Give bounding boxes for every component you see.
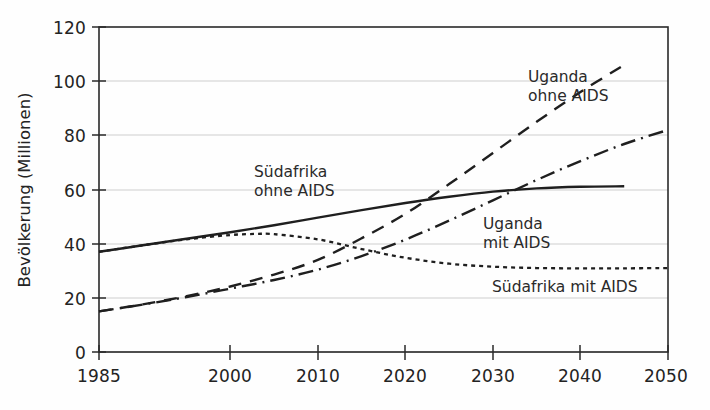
x-axis-label-2040: 2040 — [558, 366, 602, 386]
label-suedafrika-ohne-aids-line2: ohne AIDS — [254, 182, 335, 200]
y-axis-label-40: 40 — [64, 235, 86, 255]
population-projection-line-chart: 0 20 40 60 80 100 120 1985 2000 2010 202… — [0, 0, 710, 410]
x-axis-label-1985: 1985 — [77, 366, 121, 386]
gridlines — [99, 81, 668, 352]
y-axis-label-60: 60 — [64, 181, 86, 201]
y-axis-label-120: 120 — [53, 18, 86, 38]
x-axis-label-2010: 2010 — [296, 366, 340, 386]
y-axis-title: Bevölkerung (Millionen) — [15, 92, 34, 287]
label-uganda-mit-aids-line1: Uganda — [483, 215, 543, 233]
label-uganda-ohne-aids-line2: ohne AIDS — [528, 87, 609, 105]
chart-container: 0 20 40 60 80 100 120 1985 2000 2010 202… — [0, 0, 710, 410]
label-uganda-ohne-aids-line1: Uganda — [528, 68, 588, 86]
y-axis-label-80: 80 — [64, 126, 86, 146]
x-tick-labels: 1985 2000 2010 2020 2030 2040 2050 — [77, 366, 688, 386]
x-axis-label-2050: 2050 — [644, 366, 688, 386]
series-annotations: Südafrika ohne AIDS Uganda ohne AIDS Uga… — [254, 68, 638, 296]
y-axis-label-20: 20 — [64, 289, 86, 309]
x-axis-label-2000: 2000 — [208, 366, 252, 386]
y-axis-label-100: 100 — [53, 72, 86, 92]
y-tick-labels: 0 20 40 60 80 100 120 — [53, 18, 86, 363]
label-suedafrika-mit-aids: Südafrika mit AIDS — [492, 278, 638, 296]
x-axis-label-2030: 2030 — [471, 366, 515, 386]
x-axis-label-2020: 2020 — [383, 366, 427, 386]
label-suedafrika-ohne-aids-line1: Südafrika — [254, 163, 327, 181]
label-uganda-mit-aids-line2: mit AIDS — [483, 234, 550, 252]
y-axis-label-0: 0 — [75, 343, 86, 363]
